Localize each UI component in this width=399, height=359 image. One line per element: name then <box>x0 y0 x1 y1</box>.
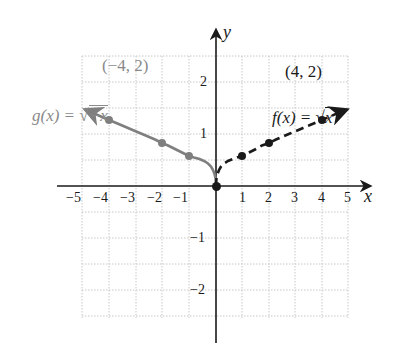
x-tick-2: 2 <box>265 190 272 206</box>
g-function-label: g(x) = √−x <box>32 106 108 126</box>
g-point-label: (−4, 2) <box>102 56 148 76</box>
y-tick-1: 1 <box>200 126 207 142</box>
g-function-prefix: g(x) = <box>32 106 79 125</box>
f-function-prefix: f(x) = <box>272 108 316 127</box>
coordinate-plane <box>0 0 399 359</box>
x-tick-neg5: −5 <box>66 190 81 206</box>
f-point-label: (4, 2) <box>285 62 322 82</box>
x-tick-neg2: −2 <box>147 190 162 206</box>
y-axis-label: y <box>223 22 231 43</box>
point-f-1 <box>238 152 246 160</box>
y-tick-2: 2 <box>200 74 207 90</box>
y-tick-neg1: −1 <box>190 230 205 246</box>
g-radical-sign: √ <box>79 106 88 125</box>
f-radical-sign: √ <box>316 108 325 127</box>
x-tick-5: 5 <box>344 190 351 206</box>
x-tick-3: 3 <box>291 190 298 206</box>
f-radicand: x <box>325 107 333 127</box>
g-curve <box>189 160 216 186</box>
y-tick-neg2: −2 <box>190 282 205 298</box>
point-f-2 <box>265 139 273 147</box>
x-tick-4: 4 <box>318 190 325 206</box>
x-axis-label: x <box>364 186 372 207</box>
point-origin <box>212 182 221 191</box>
f-function-label: f(x) = √x <box>272 108 332 128</box>
point-g-neg1 <box>185 152 193 160</box>
x-tick-neg3: −3 <box>120 190 135 206</box>
g-radicand: −x <box>89 105 108 125</box>
x-tick-neg4: −4 <box>93 190 108 206</box>
x-tick-neg1: −1 <box>173 190 188 206</box>
x-tick-1: 1 <box>239 190 246 206</box>
point-g-neg2 <box>158 139 166 147</box>
